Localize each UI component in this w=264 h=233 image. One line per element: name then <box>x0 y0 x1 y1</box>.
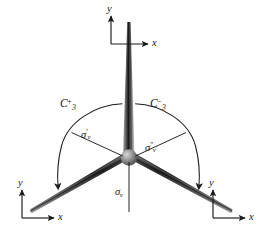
blade-lower-right <box>129 153 233 214</box>
sigma-v-subscript: v <box>120 191 123 198</box>
label-sigma-v-prime: σ′v <box>81 129 90 141</box>
axis-label-bottom-right-x: x <box>249 212 254 223</box>
axis-label-bottom-left-x: x <box>58 212 63 223</box>
label-c3-minus: C−3 <box>150 98 166 111</box>
blade-top <box>123 22 135 160</box>
axis-label-top-x: x <box>152 38 157 49</box>
axis-label-top-y: y <box>107 4 112 15</box>
symmetry-diagram-graphic <box>0 0 264 233</box>
c3-minus-subscript: 3 <box>162 103 166 112</box>
label-sigma-v: σv <box>115 187 123 199</box>
blade-lower-left <box>30 153 130 214</box>
sigma-v-double-prime-line <box>135 133 186 157</box>
axis-frame-bottom-left <box>22 190 54 218</box>
sigma-v-prime-line <box>72 133 123 157</box>
axis-label-bottom-left-y: y <box>18 178 23 189</box>
axis-label-bottom-right-y: y <box>209 178 214 189</box>
figure-canvas: y x y x y x C+3 C−3 σ′v σ″v σv <box>0 0 264 233</box>
label-c3-plus: C+3 <box>60 98 76 111</box>
sigma-v-double-prime-subscript: v <box>153 146 156 153</box>
c3-plus-subscript: 3 <box>72 103 76 112</box>
label-sigma-v-double-prime: σ″v <box>145 142 156 154</box>
sigma-v-prime-subscript: v <box>87 133 90 140</box>
propeller-blades <box>30 22 233 213</box>
